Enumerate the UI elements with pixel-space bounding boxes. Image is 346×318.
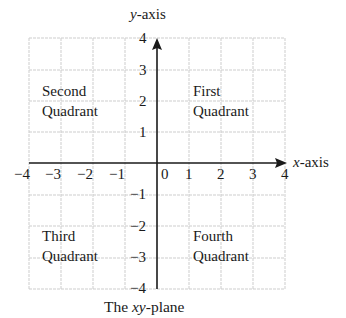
- third-quadrant-label: Third Quadrant: [42, 226, 98, 266]
- y-tick: 3: [139, 62, 147, 79]
- diagram-caption: The xy-plane: [104, 298, 184, 315]
- x-tick: 3: [249, 166, 257, 183]
- x-tick: −4: [14, 166, 30, 183]
- fourth-quadrant-label: Fourth Quadrant: [193, 226, 249, 266]
- y-tick: 1: [139, 124, 147, 141]
- x-tick: 2: [217, 166, 225, 183]
- second-quadrant-label: Second Quadrant: [42, 81, 98, 121]
- x-tick: 0: [161, 166, 169, 183]
- x-axis-label: x-axis: [293, 154, 329, 171]
- y-tick: 4: [139, 30, 147, 47]
- y-axis-label: y-axis: [130, 6, 166, 23]
- x-tick: −2: [77, 166, 93, 183]
- y-tick: −4: [130, 280, 146, 297]
- y-tick: −2: [130, 218, 146, 235]
- x-tick: −1: [109, 166, 125, 183]
- x-tick: 4: [281, 166, 289, 183]
- y-tick: 2: [139, 93, 147, 110]
- x-tick: −3: [45, 166, 61, 183]
- first-quadrant-label: First Quadrant: [193, 81, 249, 121]
- y-tick: −3: [130, 249, 146, 266]
- y-tick: −1: [130, 186, 146, 203]
- x-tick: 1: [185, 166, 193, 183]
